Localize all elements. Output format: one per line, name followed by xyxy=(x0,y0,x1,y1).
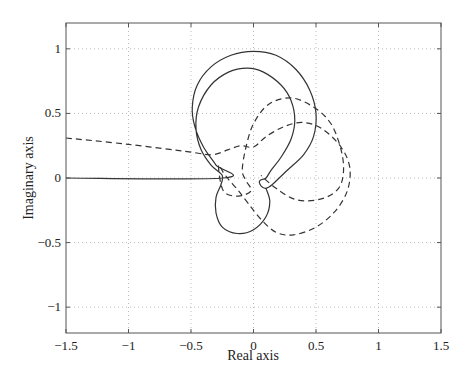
x-tick-label: −0.5 xyxy=(179,338,203,353)
x-axis-label: Real axis xyxy=(227,348,279,363)
y-tick-label: 1 xyxy=(55,41,62,56)
x-tick-label: 1.5 xyxy=(433,338,449,353)
x-tick-label: 1 xyxy=(375,338,382,353)
dashed-curve xyxy=(66,98,350,235)
axis-ticks: −1.5−1−0.500.511.510.50−0.5−1 xyxy=(37,23,449,353)
solid-curve xyxy=(66,51,316,233)
y-axis-label: Imaginary axis xyxy=(21,136,36,220)
y-tick-label: 0.5 xyxy=(45,105,61,120)
plot-series xyxy=(66,51,350,235)
y-tick-label: −0.5 xyxy=(37,235,61,250)
x-tick-label: −1.5 xyxy=(54,338,78,353)
x-tick-label: 0.5 xyxy=(308,338,324,353)
y-tick-label: −1 xyxy=(47,299,61,314)
y-tick-label: 0 xyxy=(55,170,62,185)
nyquist-chart: −1.5−1−0.500.511.510.50−0.5−1 Real axis … xyxy=(0,0,472,378)
x-tick-label: −1 xyxy=(122,338,136,353)
